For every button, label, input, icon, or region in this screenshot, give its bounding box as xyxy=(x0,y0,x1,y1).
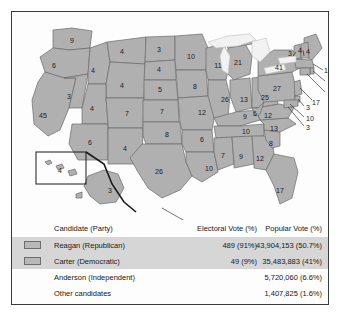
state-ia xyxy=(176,70,208,98)
ev-label-mn: 10 xyxy=(187,53,195,60)
ev-label-tn: 10 xyxy=(242,128,250,135)
ev-label-ny: 41 xyxy=(275,64,283,71)
lake-superior xyxy=(208,34,256,48)
ev-callout-nj: 17 xyxy=(312,99,320,106)
ev-label-pa: 27 xyxy=(273,85,281,92)
results-table: Candidate (Party) Electoral Vote (%) Pop… xyxy=(12,220,328,305)
state-ok xyxy=(143,122,182,144)
ev-label-wa: 9 xyxy=(70,37,74,44)
election-map-figure: 9645344446743457826108126101121261325910… xyxy=(11,11,329,305)
ev-label-wv: 6 xyxy=(253,110,257,117)
legend-swatch xyxy=(24,257,41,265)
state-shapes xyxy=(32,28,322,204)
ev-label-mo: 12 xyxy=(198,109,206,116)
state-ak xyxy=(76,170,124,204)
us-electoral-map: 9645344446743457826108126101121261325910… xyxy=(12,12,328,220)
legend-swatch xyxy=(24,241,41,249)
ev-label-ky: 9 xyxy=(243,113,247,120)
state-ma xyxy=(294,59,314,68)
ev-callout-ma: 14 xyxy=(324,67,328,74)
state-ca xyxy=(32,72,76,136)
ev-label-nh: 4 xyxy=(298,47,302,54)
ev-callout-de: 3 xyxy=(306,104,310,111)
ev-label-vt: 3 xyxy=(288,50,292,57)
ev-callout-dc: 3 xyxy=(306,124,310,131)
table-row: Other candidates1,407,825 (1.6%) xyxy=(12,285,328,301)
ev-label-ar: 6 xyxy=(200,136,204,143)
ev-label-il: 26 xyxy=(221,96,229,103)
ev-label-nd: 3 xyxy=(157,46,161,53)
leader-ma xyxy=(313,64,323,70)
cell-popular: 5,720,060 (6.6%) xyxy=(187,273,322,282)
state-ct xyxy=(300,68,310,75)
cell-candidate: Anderson (Independent) xyxy=(54,273,135,282)
ev-label-sd: 4 xyxy=(157,66,161,73)
ev-label-mi: 21 xyxy=(234,59,242,66)
cell-candidate: Other candidates xyxy=(54,289,111,298)
state-mt xyxy=(107,37,146,64)
leader-table-pointer xyxy=(162,208,190,220)
state-ut xyxy=(82,84,108,124)
state-nj xyxy=(294,80,302,96)
state-id xyxy=(88,42,110,84)
ev-label-wi: 11 xyxy=(214,62,221,69)
ev-label-va: 12 xyxy=(264,112,272,119)
ev-label-nc: 13 xyxy=(270,125,278,132)
leader-de xyxy=(298,99,304,106)
ev-label-ok: 8 xyxy=(165,131,169,138)
ev-label-id: 4 xyxy=(91,67,95,74)
ev-label-me: 4 xyxy=(306,48,310,55)
ev-label-ga: 12 xyxy=(256,155,264,162)
ev-label-nv: 3 xyxy=(67,93,71,100)
table-row: Reagan (Republican)489 (91%)43,904,153 (… xyxy=(12,237,328,253)
state-wy xyxy=(106,62,145,98)
ev-label-ms: 7 xyxy=(221,152,225,159)
ev-label-co: 7 xyxy=(125,110,129,117)
ev-label-nm: 4 xyxy=(123,145,127,152)
ev-label-az: 6 xyxy=(88,139,92,146)
ev-label-sc: 8 xyxy=(269,140,273,147)
ev-label-ut: 4 xyxy=(90,105,94,112)
ev-label-in: 13 xyxy=(240,96,248,103)
ev-label-ca: 45 xyxy=(39,112,47,119)
state-md xyxy=(284,100,298,108)
ev-label-ks: 7 xyxy=(160,108,164,115)
ev-label-fl: 17 xyxy=(276,187,284,194)
ev-inset-hi: 4 xyxy=(58,167,62,174)
ev-label-or: 6 xyxy=(52,62,56,69)
ev-label-oh: 25 xyxy=(261,94,269,101)
cell-popular: 35,483,883 (41%) xyxy=(187,257,322,266)
ev-label-mt: 4 xyxy=(120,48,124,55)
state-fl xyxy=(266,154,298,204)
table-row: Anderson (Independent)5,720,060 (6.6%) xyxy=(12,269,328,285)
state-ar xyxy=(182,130,214,152)
ev-inset-ak: 3 xyxy=(108,187,112,194)
ev-label-tx: 26 xyxy=(155,168,163,175)
cell-candidate: Carter (Democratic) xyxy=(54,257,120,266)
cell-popular: 1,407,825 (1.6%) xyxy=(187,289,322,298)
ev-label-ia: 8 xyxy=(193,83,197,90)
cell-candidate: Reagan (Republican) xyxy=(54,241,125,250)
ev-label-wy: 4 xyxy=(120,82,124,89)
ev-label-ne: 5 xyxy=(158,86,162,93)
ev-label-la: 10 xyxy=(205,165,213,172)
header-candidate: Candidate (Party) xyxy=(54,224,113,233)
ev-label-al: 9 xyxy=(239,153,243,160)
ev-callout-md: 10 xyxy=(306,115,314,122)
table-header-row: Candidate (Party) Electoral Vote (%) Pop… xyxy=(12,220,328,236)
table-row: Carter (Democratic)49 (9%)35,483,883 (41… xyxy=(12,253,328,269)
leader-ct xyxy=(307,74,325,92)
cell-popular: 43,904,153 (50.7%) xyxy=(187,241,322,250)
header-popular: Popular Vote (%) xyxy=(187,224,322,233)
